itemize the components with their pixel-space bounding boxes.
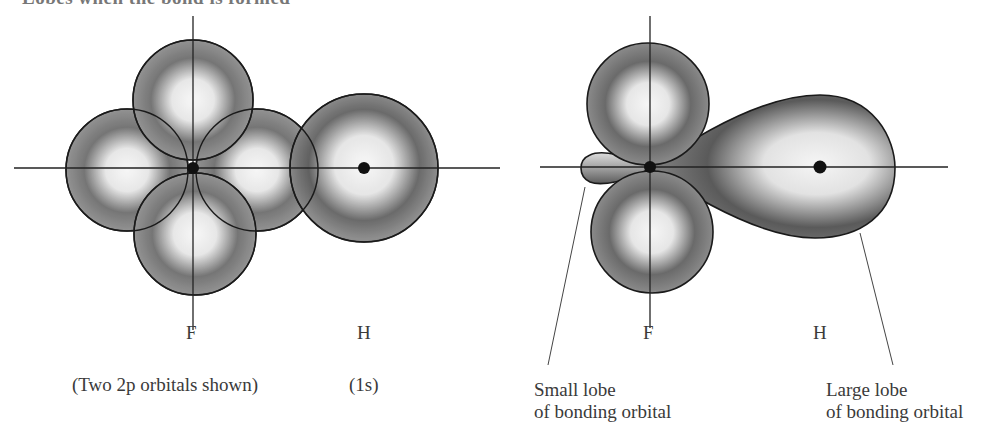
atom-label-f-right: F: [643, 321, 654, 344]
p-lobe-bottom-right: [591, 171, 713, 293]
atom-label-h-right: H: [813, 321, 827, 344]
hydrogen-nucleus-left: [358, 162, 370, 174]
hydrogen-nucleus-right: [814, 161, 827, 174]
annotation-large-lobe-line1: Large lobe: [826, 378, 907, 401]
caption-hydrogen-orbital: (1s): [349, 373, 379, 396]
large-lobe-leader-line: [860, 233, 893, 365]
small-lobe-leader-line: [548, 187, 585, 365]
atom-label-h-left: H: [357, 321, 371, 344]
atom-label-f-left: F: [186, 321, 197, 344]
annotation-small-lobe-line1: Small lobe: [534, 378, 616, 401]
p-lobe-top-right: [587, 43, 709, 165]
fluorine-nucleus-left: [187, 162, 199, 174]
fluorine-nucleus-right: [644, 161, 656, 173]
annotation-small-lobe-line2: of bonding orbital: [534, 400, 671, 423]
left-panel: [14, 16, 500, 330]
annotation-large-lobe-line2: of bonding orbital: [826, 400, 963, 423]
caption-fluorine-orbitals: (Two 2p orbitals shown): [72, 373, 258, 396]
right-panel: [540, 16, 948, 365]
